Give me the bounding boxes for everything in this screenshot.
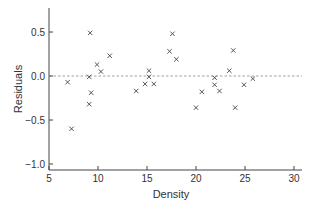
data-point-x-marker <box>212 83 216 87</box>
data-point-x-marker <box>152 82 156 86</box>
y-tick-label: 0.5 <box>31 27 45 38</box>
data-point-x-marker <box>147 69 151 73</box>
x-tick-label: 5 <box>46 173 52 184</box>
data-point-x-marker <box>251 76 255 80</box>
x-tick-label: 15 <box>141 173 153 184</box>
y-tick-label: 0.0 <box>31 71 45 82</box>
data-point-x-marker <box>134 89 138 93</box>
data-point-x-marker <box>200 90 204 94</box>
data-point-x-marker <box>194 105 198 109</box>
data-point-x-marker <box>87 102 91 106</box>
data-point-x-marker <box>143 82 147 86</box>
data-point-x-marker <box>69 127 73 131</box>
data-point-x-marker <box>108 54 112 58</box>
data-point-x-marker <box>88 31 92 35</box>
x-tick-label: 10 <box>92 173 104 184</box>
data-point-x-marker <box>147 75 151 79</box>
data-points <box>65 31 255 131</box>
data-point-x-marker <box>167 49 171 53</box>
axes: 510152025300.50.0−0.5−1.0 <box>25 8 302 184</box>
x-tick-label: 20 <box>190 173 202 184</box>
y-tick-label: −1.0 <box>25 159 45 170</box>
data-point-x-marker <box>170 32 174 36</box>
data-point-x-marker <box>212 76 216 80</box>
data-point-x-marker <box>174 57 178 61</box>
data-point-x-marker <box>217 89 221 93</box>
data-point-x-marker <box>89 91 93 95</box>
data-point-x-marker <box>95 62 99 66</box>
x-tick-label: 30 <box>288 173 300 184</box>
data-point-x-marker <box>233 105 237 109</box>
data-point-x-marker <box>87 75 91 79</box>
data-point-x-marker <box>242 83 246 87</box>
data-point-x-marker <box>227 69 231 73</box>
x-tick-label: 25 <box>239 173 251 184</box>
data-point-x-marker <box>231 48 235 52</box>
residuals-scatter-chart: 510152025300.50.0−0.5−1.0 Density Residu… <box>0 0 320 205</box>
y-axis-label: Residuals <box>12 64 24 113</box>
data-point-x-marker <box>65 80 69 84</box>
y-tick-label: −0.5 <box>25 115 45 126</box>
data-point-x-marker <box>99 69 103 73</box>
x-axis-label: Density <box>153 188 190 200</box>
